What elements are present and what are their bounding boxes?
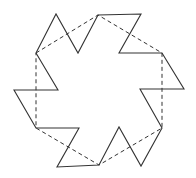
- pinwheel-star-polygon: [14, 14, 184, 167]
- geometry-diagram: [0, 0, 196, 178]
